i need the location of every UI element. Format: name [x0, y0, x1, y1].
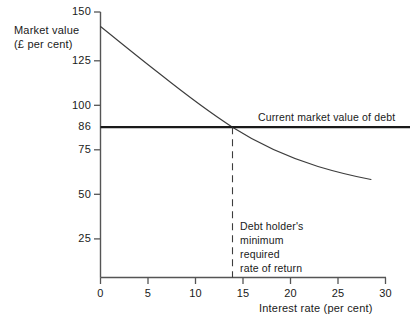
y-tick-label-150: 150 — [58, 5, 91, 18]
x-tick-label-30: 30 — [371, 287, 400, 300]
x-tick-label-15: 15 — [229, 287, 258, 300]
x-axis-ticks — [101, 278, 386, 285]
y-axis-title-line1: Market value — [14, 24, 79, 37]
y-tick-label-25: 25 — [58, 232, 91, 245]
x-tick-label-0: 0 — [86, 287, 115, 300]
y-tick-label-125: 125 — [58, 54, 91, 67]
y-tick-label-50: 50 — [58, 188, 91, 201]
debt-holder-annotation-line2: minimum — [240, 233, 284, 248]
debt-holder-annotation-line4: rate of return — [240, 261, 302, 276]
y-axis-title-line2: (£ per cent) — [14, 38, 73, 51]
x-tick-label-10: 10 — [181, 287, 210, 300]
y-tick-label-100: 100 — [58, 99, 91, 112]
x-axis-title: Interest rate (per cent) — [259, 302, 373, 315]
x-tick-label-25: 25 — [324, 287, 353, 300]
y-tick-label-86: 86 — [58, 120, 91, 133]
current-market-value-annotation: Current market value of debt — [258, 111, 395, 123]
y-axis-ticks — [94, 12, 101, 239]
debt-holder-annotation-line3: required — [240, 247, 280, 262]
x-tick-label-5: 5 — [134, 287, 163, 300]
y-tick-label-75: 75 — [58, 143, 91, 156]
debt-holder-annotation-line1: Debt holder's — [240, 219, 304, 234]
chart-figure: 150 125 100 86 75 50 25 0 5 10 15 20 25 … — [0, 0, 414, 322]
x-tick-label-20: 20 — [276, 287, 305, 300]
market-value-curve — [101, 27, 372, 180]
